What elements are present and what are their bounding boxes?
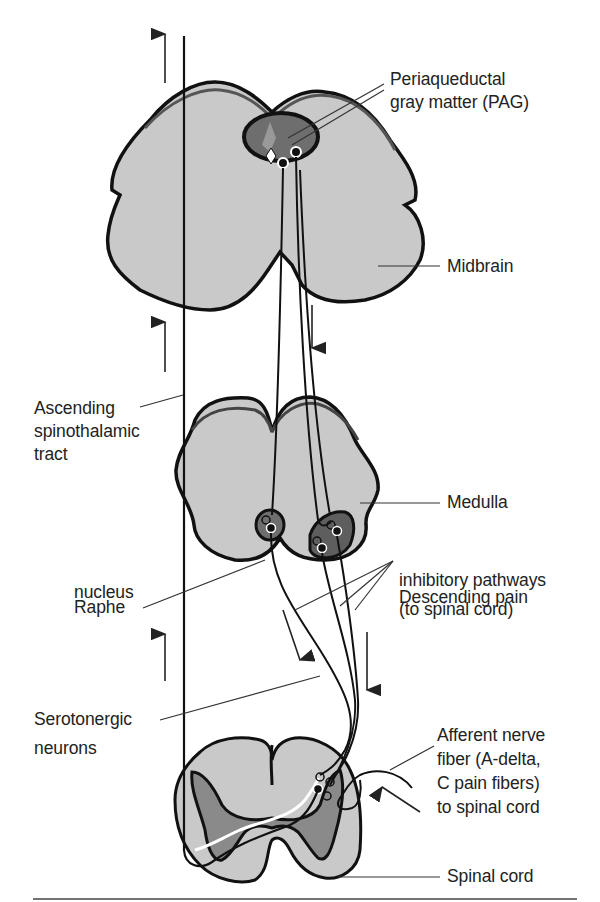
pain-pathway-diagram: Periaqueductal gray matter (PAG) Midbrai… — [0, 0, 600, 902]
pag-region — [244, 113, 318, 161]
label-midbrain: Midbrain — [447, 256, 513, 277]
label-raphe-line2: nucleus — [74, 582, 134, 603]
afferent-arrow-icon — [382, 787, 420, 812]
label-spinal-cord: Spinal cord — [447, 866, 533, 887]
label-ascending-line3: tract — [34, 444, 68, 465]
label-afferent-line3: C pain fibers) — [437, 773, 540, 794]
descending-arrow-icon — [283, 610, 300, 660]
label-medulla: Medulla — [447, 492, 508, 513]
label-ascending-line2: spinothalamic — [34, 421, 140, 442]
label-pag-line1: Periaqueductal — [390, 69, 505, 90]
label-afferent-line1: Afferent nerve — [437, 725, 545, 746]
spinal-cord-section — [175, 738, 361, 882]
label-descending-line3: (to spinal cord) — [399, 599, 513, 620]
midbrain-section — [108, 82, 424, 310]
label-descending-line2: inhibitory pathways — [399, 570, 546, 591]
label-afferent-line2: fiber (A-delta, — [437, 749, 541, 770]
label-ascending-line1: Ascending — [34, 398, 115, 419]
label-serotonergic-line2: neurons — [34, 738, 97, 759]
label-pag-line2: gray matter (PAG) — [390, 92, 529, 113]
label-serotonergic-line1: Serotonergic — [34, 709, 132, 730]
label-afferent-line4: to spinal cord — [437, 797, 540, 818]
